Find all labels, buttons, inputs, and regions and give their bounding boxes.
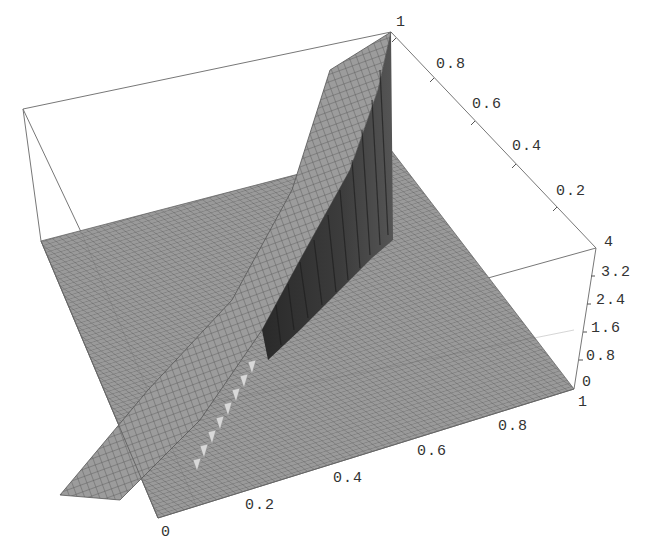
y-tick-label: 4: [604, 234, 614, 251]
z-tick-label: 0.6: [472, 96, 502, 113]
x-tick-label: 1: [578, 394, 588, 411]
x-tick-label: 0.8: [498, 418, 528, 435]
y-tick-label: 3.2: [601, 264, 631, 281]
x-tick-label: 0: [161, 524, 171, 541]
z-tick-label: 0.4: [512, 138, 542, 155]
x-tick-label: 0.2: [245, 497, 275, 514]
x-tick-label: 0.6: [417, 443, 447, 460]
z-tick-label: 0.2: [556, 183, 586, 200]
y-tick-label: 2.4: [596, 292, 626, 309]
y-tick-label: 0: [582, 374, 592, 391]
x-tick-label: 0.4: [333, 470, 363, 487]
surface-plot: [0, 0, 647, 558]
y-tick-label: 0.8: [586, 348, 616, 365]
z-tick-label: 0.8: [436, 56, 466, 73]
y-tick-label: 1.6: [591, 320, 621, 337]
z-tick-label: 1: [396, 14, 406, 31]
